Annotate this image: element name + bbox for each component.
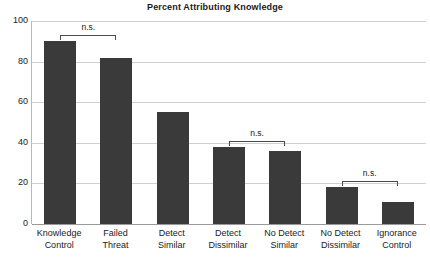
bar xyxy=(326,187,358,224)
x-axis-tick-label-line: Threat xyxy=(85,240,145,252)
significance-label: n.s. xyxy=(350,168,390,178)
bar xyxy=(100,58,132,224)
x-axis-tick-label: No DetectSimilar xyxy=(254,228,314,251)
y-axis-tick-label: 20 xyxy=(2,177,28,187)
x-axis-tick-label-line: Detect xyxy=(198,228,258,240)
significance-label: n.s. xyxy=(237,128,277,138)
y-axis-tick-label: 60 xyxy=(2,96,28,106)
x-axis-tick-label-line: No Detect xyxy=(311,228,371,240)
bar xyxy=(44,41,76,224)
x-axis-tick-label-line: Detect xyxy=(142,228,202,240)
x-axis-tick-label-line: Dissimilar xyxy=(311,240,371,252)
x-axis-tick-label-line: Control xyxy=(367,240,427,252)
x-axis-tick-label: No DetectDissimilar xyxy=(311,228,371,251)
gridline xyxy=(32,224,426,225)
x-axis-tick-label-line: Ignorance xyxy=(367,228,427,240)
x-axis-tick-label-line: Failed xyxy=(85,228,145,240)
significance-bracket xyxy=(60,35,116,40)
y-axis-tick-label: 80 xyxy=(2,56,28,66)
x-axis-tick-label-line: Similar xyxy=(142,240,202,252)
chart-title: Percent Attributing Knowledge xyxy=(0,2,430,12)
gridline xyxy=(32,102,426,103)
significance-bracket xyxy=(229,141,285,146)
x-axis-tick-label-line: Control xyxy=(29,240,89,252)
bar xyxy=(157,112,189,224)
x-axis-tick-label-line: No Detect xyxy=(254,228,314,240)
bar-chart: Percent Attributing Knowledge 0204060801… xyxy=(0,0,430,263)
x-axis-tick-label: KnowledgeControl xyxy=(29,228,89,251)
significance-label: n.s. xyxy=(68,22,108,32)
x-axis-tick-label-line: Similar xyxy=(254,240,314,252)
significance-bracket xyxy=(342,181,398,186)
x-axis-tick-label: DetectDissimilar xyxy=(198,228,258,251)
y-axis-tick-label: 40 xyxy=(2,137,28,147)
x-axis-tick-label: IgnoranceControl xyxy=(367,228,427,251)
y-axis-tick-label: 0 xyxy=(2,218,28,228)
y-axis-tick-label: 100 xyxy=(2,15,28,25)
x-axis-tick-label: FailedThreat xyxy=(85,228,145,251)
gridline xyxy=(32,62,426,63)
x-axis-tick-label-line: Knowledge xyxy=(29,228,89,240)
bar xyxy=(269,151,301,224)
x-axis-tick-label: DetectSimilar xyxy=(142,228,202,251)
x-axis-tick-label-line: Dissimilar xyxy=(198,240,258,252)
bar xyxy=(213,147,245,224)
bar xyxy=(382,202,414,224)
plot-area: n.s.n.s.n.s. xyxy=(31,21,425,224)
y-axis-tick-labels: 020406080100 xyxy=(0,0,28,263)
